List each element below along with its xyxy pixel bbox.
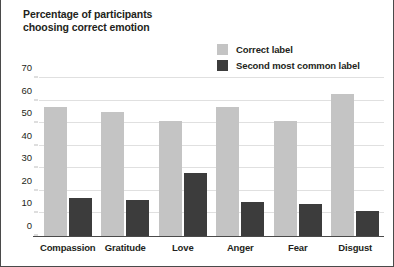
plot-area: 010203040506070 CompassionGratitudeLoveA… — [39, 78, 384, 236]
x-axis-category-label: Gratitude — [105, 242, 146, 253]
y-axis-tick-label: 40 — [21, 129, 32, 140]
y-axis-tick-mark — [34, 212, 38, 213]
x-axis-category-label: Anger — [227, 242, 254, 253]
bar-group: Disgust — [327, 78, 385, 236]
legend-label-second-most-common-label: Second most common label — [236, 60, 360, 71]
bar — [241, 202, 264, 236]
legend-item-second-most-common-label: Second most common label — [217, 59, 360, 72]
bar — [159, 121, 182, 236]
bar-group: Fear — [269, 78, 327, 236]
y-axis-tick-label: 10 — [21, 197, 32, 208]
chart-title: Percentage of participants choosing corr… — [23, 8, 193, 33]
bar — [101, 112, 124, 236]
bar — [274, 121, 297, 236]
legend-item-correct-label: Correct label — [217, 43, 360, 56]
bar — [44, 107, 67, 236]
y-axis-tick-mark — [34, 99, 38, 100]
bar — [69, 198, 92, 236]
y-axis-tick-label: 60 — [21, 84, 32, 95]
y-axis-tick-mark — [34, 144, 38, 145]
x-axis-category-label: Disgust — [338, 242, 372, 253]
y-axis-tick-label: 20 — [21, 174, 32, 185]
x-axis-category-label: Love — [172, 242, 194, 253]
bar — [126, 200, 149, 236]
bar-group: Anger — [212, 78, 270, 236]
x-axis-category-label: Compassion — [40, 242, 96, 253]
bar — [331, 94, 354, 236]
y-axis-tick-label: 30 — [21, 152, 32, 163]
bar-group: Compassion — [39, 78, 97, 236]
y-axis-tick-mark — [34, 167, 38, 168]
bar-group: Gratitude — [97, 78, 155, 236]
legend-swatch-correct-label — [217, 44, 228, 55]
bar-chart: Percentage of participants choosing corr… — [0, 0, 394, 267]
y-axis-tick-label: 70 — [21, 62, 32, 73]
bar — [216, 107, 239, 236]
bar-group: Love — [154, 78, 212, 236]
bar — [299, 204, 322, 236]
y-axis-tick-label: 0 — [27, 220, 32, 231]
x-axis-category-label: Fear — [288, 242, 307, 253]
legend-swatch-second-most-common-label — [217, 60, 228, 71]
y-axis-tick-mark — [34, 77, 38, 78]
bar-groups: CompassionGratitudeLoveAngerFearDisgust — [39, 78, 384, 236]
bar — [184, 173, 207, 236]
y-axis-tick-mark — [34, 189, 38, 190]
y-axis-tick-label: 50 — [21, 107, 32, 118]
chart-legend: Correct label Second most common label — [217, 43, 360, 75]
bar — [356, 211, 379, 236]
legend-label-correct-label: Correct label — [236, 44, 293, 55]
y-axis-tick-mark — [34, 122, 38, 123]
